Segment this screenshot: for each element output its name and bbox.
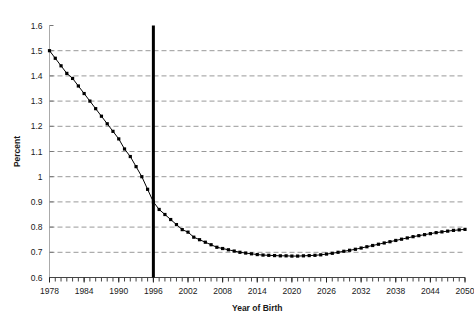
series-marker [342, 250, 345, 253]
x-axis-tick-label: 2032 [352, 286, 371, 296]
series-marker [279, 254, 282, 257]
series-marker [406, 236, 409, 239]
series-marker [198, 238, 201, 241]
series-marker [59, 64, 62, 67]
series-marker [285, 254, 288, 257]
series-marker [111, 130, 114, 133]
y-axis-tick-label: 0.7 [31, 247, 43, 257]
x-axis-title: Year of Birth [232, 303, 283, 313]
series-marker [204, 241, 207, 244]
series-marker [308, 254, 311, 257]
series-marker [192, 236, 195, 239]
series-marker [400, 238, 403, 241]
series-marker [186, 231, 189, 234]
series-marker [71, 77, 74, 80]
series-marker [394, 239, 397, 242]
series-marker [336, 251, 339, 254]
x-axis-tick-label: 2020 [282, 286, 301, 296]
series-line [50, 51, 466, 256]
series-marker [256, 253, 259, 256]
series-marker [463, 228, 466, 231]
series-marker [458, 228, 461, 231]
y-axis-tick-label: 1.2 [31, 121, 43, 131]
x-axis-tick-label: 2014 [248, 286, 267, 296]
series-marker [325, 252, 328, 255]
series-marker [152, 200, 155, 203]
series-marker [348, 249, 351, 252]
chart-figure: 0.60.70.80.911.11.21.31.41.51.6 19781984… [0, 0, 474, 325]
series-marker [238, 251, 241, 254]
x-axis-tick-label: 2008 [213, 286, 232, 296]
series-marker [452, 229, 455, 232]
series-marker [158, 208, 161, 211]
series-marker [77, 84, 80, 87]
y-axis-tick-label: 0.6 [31, 273, 43, 283]
series-marker [290, 254, 293, 257]
series-marker [429, 232, 432, 235]
y-axis-tick-label: 1 [38, 172, 43, 182]
series-marker [360, 246, 363, 249]
series-marker [88, 100, 91, 103]
x-axis-tick-label: 1996 [144, 286, 163, 296]
series-marker [250, 252, 253, 255]
series-marker [267, 254, 270, 257]
series-marker [261, 253, 264, 256]
series-marker [106, 122, 109, 125]
series-marker [383, 241, 386, 244]
series-marker [227, 248, 230, 251]
y-axis-group: 0.60.70.80.911.11.21.31.41.51.6 [31, 21, 54, 283]
series-marker [440, 230, 443, 233]
y-axis-tick-label: 1.3 [31, 96, 43, 106]
series-marker [146, 188, 149, 191]
series-marker [83, 92, 86, 95]
series-marker [365, 245, 368, 248]
series-marker [209, 243, 212, 246]
series-marker [169, 218, 172, 221]
y-axis-tick-label: 1.6 [31, 21, 43, 31]
series-marker [221, 247, 224, 250]
y-axis-tick-label: 0.8 [31, 222, 43, 232]
series-marker [215, 246, 218, 249]
x-axis-tick-label: 1990 [109, 286, 128, 296]
y-axis-tick-label: 1.1 [31, 147, 43, 157]
x-axis-group: 1978198419901996200220082014202020262032… [40, 278, 474, 296]
series-marker [94, 107, 97, 110]
x-axis-tick-label: 2026 [317, 286, 336, 296]
y-axis-title: Percent [12, 136, 22, 167]
series-marker [140, 175, 143, 178]
series-marker [331, 252, 334, 255]
line-chart-plot: 0.60.70.80.911.11.21.31.41.51.6 19781984… [0, 0, 474, 325]
series-marker [446, 230, 449, 233]
series-marker [48, 49, 51, 52]
series-marker [244, 251, 247, 254]
series-marker [54, 57, 57, 60]
series-marker [388, 240, 391, 243]
series-marker [319, 253, 322, 256]
x-axis-tick-label: 1984 [75, 286, 94, 296]
x-axis-tick-label: 2050 [456, 286, 474, 296]
series-marker [423, 233, 426, 236]
series-marker [175, 223, 178, 226]
series-marker [117, 137, 120, 140]
x-axis-tick-label: 2044 [421, 286, 440, 296]
x-axis-tick-label: 2002 [179, 286, 198, 296]
y-axis-tick-label: 1.4 [31, 71, 43, 81]
series-group [48, 49, 467, 258]
series-marker [163, 213, 166, 216]
series-marker [417, 234, 420, 237]
series-marker [371, 244, 374, 247]
series-marker [181, 228, 184, 231]
series-marker [233, 249, 236, 252]
series-marker [296, 254, 299, 257]
series-marker [134, 165, 137, 168]
y-axis-tick-label: 0.9 [31, 197, 43, 207]
series-marker [435, 231, 438, 234]
series-marker [411, 235, 414, 238]
x-axis-tick-label: 2038 [386, 286, 405, 296]
series-marker [273, 254, 276, 257]
series-marker [123, 147, 126, 150]
series-marker [100, 115, 103, 118]
series-marker [129, 155, 132, 158]
series-marker [65, 72, 68, 75]
series-marker [354, 248, 357, 251]
